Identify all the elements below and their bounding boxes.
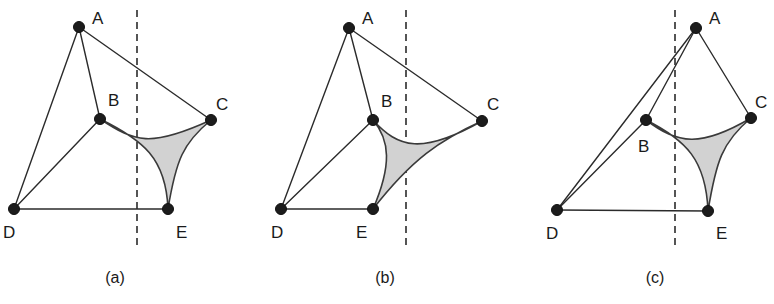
edge-d-e [557,210,708,211]
node-c[interactable] [206,115,217,126]
node-a[interactable] [74,22,85,33]
shaded-region [100,119,211,209]
node-label-e: E [176,223,187,242]
node-label-b: B [108,91,119,110]
node-label-e: E [356,223,367,242]
edge-b-d [557,120,646,210]
panel-caption: (b) [375,269,395,286]
panel-a: ABCDE(a) [3,9,228,286]
edge-a-c [696,28,751,118]
node-b[interactable] [95,114,106,125]
node-e[interactable] [703,206,714,217]
node-label-d: D [546,224,558,243]
node-label-b: B [381,92,392,111]
node-b[interactable] [641,115,652,126]
node-d[interactable] [276,204,287,215]
edge-b-d [281,120,373,209]
panel-b: ABCDE(b) [271,9,499,286]
node-d[interactable] [552,205,563,216]
node-label-b: B [638,137,649,156]
edge-a-b [646,28,696,120]
node-label-a: A [362,9,374,28]
node-label-e: E [716,224,727,243]
shaded-region [373,120,482,209]
figure-container: ABCDE(a)ABCDE(b)ABCDE(c) [0,0,774,304]
node-label-d: D [3,223,15,242]
node-d[interactable] [9,204,20,215]
figure-render-root: ABCDE(a)ABCDE(b)ABCDE(c) [3,9,767,286]
node-a[interactable] [691,23,702,34]
panel-c: ABCDE(c) [546,9,767,286]
edge-b-d [14,119,100,209]
node-c[interactable] [477,116,488,127]
node-a[interactable] [344,23,355,34]
edge-a-c [79,27,211,120]
node-label-c: C [216,95,228,114]
node-e[interactable] [163,204,174,215]
panel-caption: (a) [105,269,125,286]
node-e[interactable] [368,204,379,215]
node-label-a: A [709,9,721,28]
panel-caption: (c) [646,269,665,286]
shaded-region [646,118,751,211]
node-label-c: C [755,93,767,112]
edge-a-d [281,28,349,209]
node-c[interactable] [746,113,757,124]
node-label-c: C [487,95,499,114]
node-label-d: D [271,223,283,242]
edge-a-d [14,27,79,209]
node-b[interactable] [368,115,379,126]
edge-a-b [79,27,100,119]
figure-svg: ABCDE(a)ABCDE(b)ABCDE(c) [0,0,774,304]
node-label-a: A [92,9,104,28]
